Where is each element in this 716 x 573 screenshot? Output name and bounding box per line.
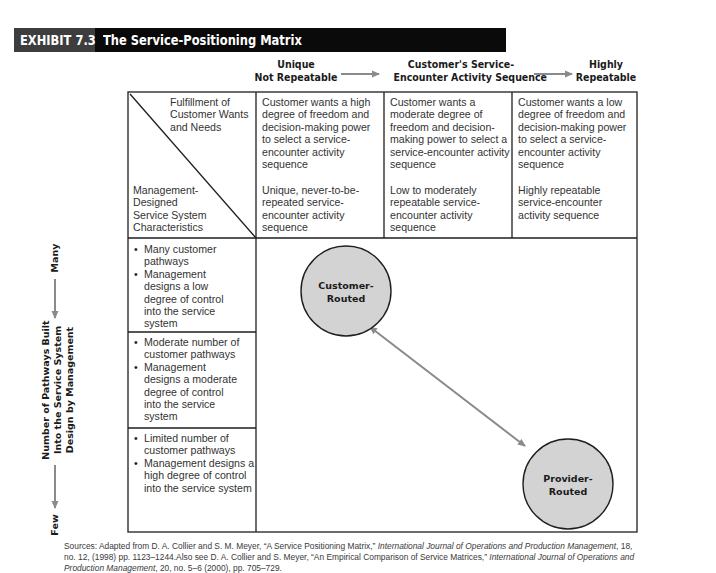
column-2-characteristics: Low to moderately repeatable service-enc… xyxy=(390,184,500,234)
row-1-characteristics: Many customer pathways Management design… xyxy=(133,243,243,330)
row-2-characteristics: Moderate number of customer pathways Man… xyxy=(133,336,243,423)
column-3-wants: Customer wants a low degree of freedom a… xyxy=(518,96,636,170)
row-2-bullet-2: Management designs a moderate degree of … xyxy=(133,361,243,423)
row-3-bullet-1: Limited number of customer pathways xyxy=(133,432,255,457)
side-axis-bottom-label: Few xyxy=(49,514,61,535)
row-1-bullet-1: Many customer pathways xyxy=(133,243,243,268)
corner-characteristics-label: Management-Designed Service System Chara… xyxy=(133,184,213,234)
row-3-bullet-2: Management designs a high degree of cont… xyxy=(133,457,255,494)
column-3-characteristics: Highly repeatable service-encounter acti… xyxy=(518,184,628,221)
side-axis-title: Number of Pathways Built Into the Servic… xyxy=(40,320,76,459)
column-2-wants: Customer wants a moderate degree of free… xyxy=(390,96,510,170)
column-1-wants: Customer wants a high degree of freedom … xyxy=(262,96,382,170)
corner-wants-label: Fulfillment of Customer Wants and Needs xyxy=(170,96,256,133)
row-3-characteristics: Limited number of customer pathways Mana… xyxy=(133,432,255,494)
provider-routed-label: Provider- Routed xyxy=(518,473,618,498)
column-1-characteristics: Unique, never-to-be-repeated service-enc… xyxy=(262,184,382,234)
customer-routed-label: Customer- Routed xyxy=(296,280,396,305)
side-axis-top-label: Many xyxy=(49,244,61,273)
row-2-bullet-1: Moderate number of customer pathways xyxy=(133,336,243,361)
row-1-bullet-2: Management designs a low degree of contr… xyxy=(133,268,243,330)
double-arrow-connector xyxy=(370,327,525,446)
source-note: Sources: Adapted from D. A. Collier and … xyxy=(64,541,704,573)
